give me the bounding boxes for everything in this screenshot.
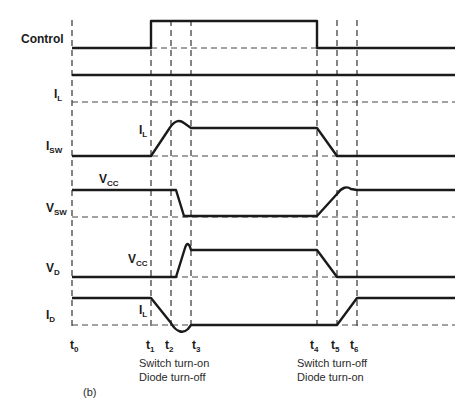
phase-caption-turn-off: Switch turn-off Diode turn-on — [297, 356, 367, 384]
waveform-vsw — [72, 187, 455, 216]
label-control: Control — [21, 32, 64, 46]
annotation-vsw-vcc: VCC — [99, 172, 119, 188]
time-marker-t2: t2 — [165, 338, 173, 354]
label-isw-sub: SW — [49, 146, 62, 155]
t1-sub: 1 — [150, 345, 154, 354]
label-id: ID — [46, 308, 55, 324]
figure-label: (b) — [83, 385, 96, 399]
time-marker-t5: t5 — [331, 338, 339, 354]
timing-diagram — [0, 0, 476, 417]
phase-caption-turn-off-line1: Switch turn-off — [297, 356, 367, 370]
phase-caption-turn-on: Switch turn-on Diode turn-off — [139, 356, 209, 384]
t6-sub: 6 — [354, 345, 358, 354]
label-vsw: VSW — [46, 201, 67, 217]
t4-sub: 4 — [314, 345, 318, 354]
label-il-sub: L — [57, 94, 62, 103]
waveform-id — [72, 298, 455, 332]
phase-caption-turn-on-line2: Diode turn-off — [139, 370, 209, 384]
time-marker-t1: t1 — [146, 338, 154, 354]
phase-caption-turn-off-line2: Diode turn-on — [297, 370, 367, 384]
annotation-isw-il-sub: L — [142, 130, 147, 139]
label-id-sub: D — [49, 315, 55, 324]
label-vsw-sub: SW — [54, 208, 67, 217]
annotation-vsw-vcc-sub: CC — [107, 179, 119, 188]
label-isw: ISW — [46, 139, 62, 155]
t3-sub: 3 — [196, 345, 200, 354]
time-marker-t6: t6 — [350, 338, 358, 354]
annotation-id-il: IL — [139, 303, 147, 319]
baselines — [72, 48, 455, 325]
t0-sub: 0 — [74, 345, 78, 354]
waveform-isw — [72, 121, 455, 156]
label-vd: VD — [46, 261, 60, 277]
t2-sub: 2 — [169, 345, 173, 354]
time-marker-t0: t0 — [70, 338, 78, 354]
time-marker-t4: t4 — [310, 338, 318, 354]
label-vsw-name: V — [46, 201, 54, 215]
time-marker-t3: t3 — [192, 338, 200, 354]
annotation-vd-vcc: VCC — [128, 252, 148, 268]
t5-sub: 5 — [335, 345, 339, 354]
annotation-isw-il: IL — [139, 123, 147, 139]
waveforms — [72, 21, 455, 332]
annotation-vd-vcc-name: V — [128, 252, 136, 266]
label-vd-sub: D — [54, 268, 60, 277]
phase-caption-turn-on-line1: Switch turn-on — [139, 356, 209, 370]
label-vd-name: V — [46, 261, 54, 275]
annotation-vd-vcc-sub: CC — [136, 259, 148, 268]
label-il: IL — [54, 87, 62, 103]
annotation-vsw-vcc-name: V — [99, 172, 107, 186]
waveform-control — [72, 21, 455, 48]
label-control-text: Control — [21, 32, 64, 46]
annotation-id-il-sub: L — [142, 310, 147, 319]
